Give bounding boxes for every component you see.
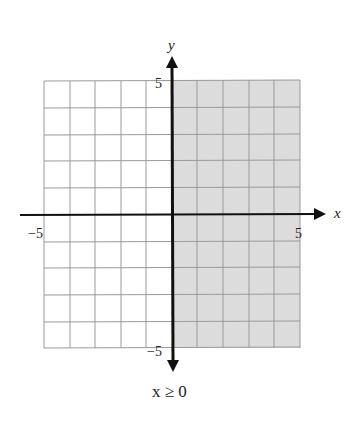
y-axis-label: y xyxy=(166,37,175,53)
x-tick-neg5: −5 xyxy=(28,226,43,241)
y-axis xyxy=(172,66,173,360)
y-tick-neg5: −5 xyxy=(147,344,162,359)
x-axis-label: x xyxy=(333,205,341,221)
x-axis-arrow-icon xyxy=(314,208,326,220)
inequality-graph: y x 5 −5 −5 5 x ≥ 0 xyxy=(0,0,353,434)
x-axis xyxy=(20,214,318,215)
x-tick-5: 5 xyxy=(295,226,302,241)
inequality-caption: x ≥ 0 xyxy=(152,382,187,401)
y-axis-arrow-up-icon xyxy=(166,56,178,68)
y-tick-5: 5 xyxy=(155,76,162,91)
y-axis-arrow-down-icon xyxy=(167,360,179,372)
